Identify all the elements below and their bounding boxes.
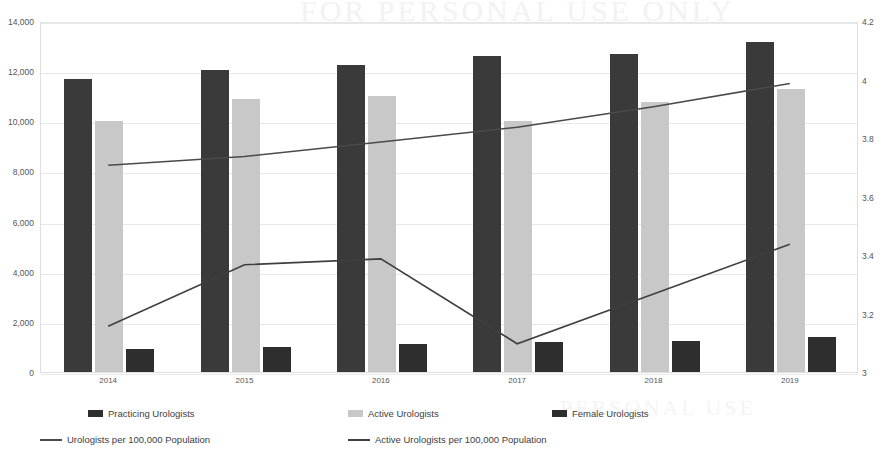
legend-item[interactable]: Female Urologists bbox=[552, 408, 649, 419]
y-axis-right-tick: 3.6 bbox=[862, 193, 874, 203]
legend-swatch-marker bbox=[348, 410, 363, 417]
y-axis-left-tick: 2,000 bbox=[13, 318, 34, 328]
y-axis-left-tick: 12,000 bbox=[8, 67, 34, 77]
legend-item[interactable]: Active Urologists bbox=[348, 408, 439, 419]
bar-active bbox=[232, 99, 260, 372]
y-axis-right-tick: 4 bbox=[862, 76, 867, 86]
legend-label: Active Urologists per 100,000 Population bbox=[375, 434, 547, 445]
bar-practicing bbox=[64, 79, 92, 372]
legend-label: Female Urologists bbox=[572, 408, 649, 419]
bar-female bbox=[399, 344, 427, 372]
bar-active bbox=[368, 96, 396, 372]
y-axis-left-tick: 10,000 bbox=[8, 117, 34, 127]
bar-practicing bbox=[473, 56, 501, 372]
legend-label: Urologists per 100,000 Population bbox=[67, 434, 210, 445]
x-axis-tick: 2017 bbox=[508, 376, 526, 385]
bar-active bbox=[641, 102, 669, 372]
y-axis-right-tick: 3.8 bbox=[862, 134, 874, 144]
legend-item[interactable]: Active Urologists per 100,000 Population bbox=[348, 434, 547, 445]
y-axis-left-tick: 6,000 bbox=[13, 218, 34, 228]
legend-item[interactable]: Urologists per 100,000 Population bbox=[40, 434, 210, 445]
bar-practicing bbox=[746, 42, 774, 372]
y-axis-left: 02,0004,0006,0008,00010,00012,00014,000 bbox=[0, 22, 34, 373]
y-axis-left-tick: 4,000 bbox=[13, 268, 34, 278]
bars-layer bbox=[41, 23, 857, 372]
y-axis-right-tick: 3.2 bbox=[862, 310, 874, 320]
bar-practicing bbox=[337, 65, 365, 372]
bar-active bbox=[504, 121, 532, 372]
x-axis-tick: 2016 bbox=[372, 376, 390, 385]
legend-label: Active Urologists bbox=[368, 408, 439, 419]
bar-female bbox=[535, 342, 563, 372]
bar-practicing bbox=[201, 70, 229, 372]
legend-line-marker bbox=[348, 439, 370, 441]
bar-female bbox=[808, 337, 836, 372]
y-axis-right: 33.23.43.63.844.2 bbox=[862, 22, 892, 373]
legend-line-marker bbox=[40, 439, 62, 441]
bar-active bbox=[95, 121, 123, 372]
bar-active bbox=[777, 89, 805, 372]
x-axis-tick: 2018 bbox=[645, 376, 663, 385]
bar-female bbox=[672, 341, 700, 372]
x-axis-tick: 2014 bbox=[99, 376, 117, 385]
y-axis-left-tick: 8,000 bbox=[13, 167, 34, 177]
x-axis: 201420152016201720182019 bbox=[40, 374, 858, 394]
bar-practicing bbox=[610, 54, 638, 372]
chart-legend: Practicing UrologistsActive UrologistsFe… bbox=[0, 400, 892, 458]
chart-container: FOR PERSONAL USE ONLY PERSONAL USE 02,00… bbox=[0, 0, 892, 458]
legend-label: Practicing Urologists bbox=[108, 408, 195, 419]
x-axis-tick: 2015 bbox=[236, 376, 254, 385]
legend-item[interactable]: Practicing Urologists bbox=[88, 408, 195, 419]
bar-female bbox=[126, 349, 154, 372]
y-axis-right-tick: 4.2 bbox=[862, 17, 874, 27]
legend-swatch-marker bbox=[552, 410, 567, 417]
x-axis-tick: 2019 bbox=[781, 376, 799, 385]
y-axis-right-tick: 3 bbox=[862, 368, 867, 378]
y-axis-left-tick: 14,000 bbox=[8, 17, 34, 27]
legend-swatch-marker bbox=[88, 410, 103, 417]
bar-female bbox=[263, 347, 291, 372]
y-axis-left-tick: 0 bbox=[29, 368, 34, 378]
y-axis-right-tick: 3.4 bbox=[862, 251, 874, 261]
